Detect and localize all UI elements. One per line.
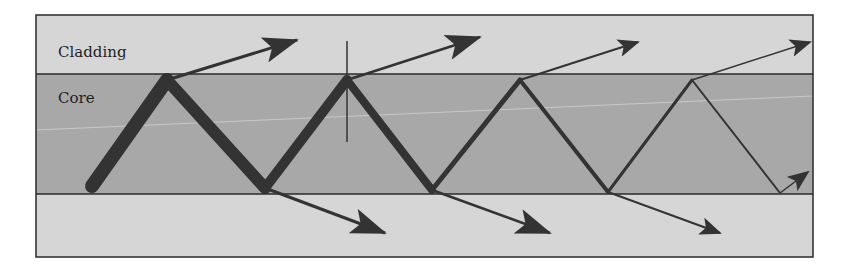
cladding-label: Cladding (58, 43, 127, 61)
core-label: Core (58, 89, 95, 107)
upper-cladding-region (36, 15, 813, 74)
fiber-ray-diagram: Cladding Core (0, 0, 849, 266)
lower-cladding-region (36, 194, 813, 257)
